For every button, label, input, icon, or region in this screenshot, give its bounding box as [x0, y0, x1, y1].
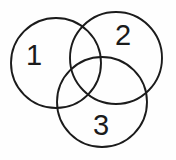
- diagram-background: [0, 0, 176, 160]
- venn-label-3: 3: [93, 109, 109, 141]
- venn-label-1: 1: [26, 39, 42, 71]
- venn-label-2: 2: [115, 19, 131, 51]
- venn-diagram-canvas: 1 2 3: [0, 0, 176, 160]
- venn-diagram-figure: 1 2 3: [0, 0, 176, 160]
